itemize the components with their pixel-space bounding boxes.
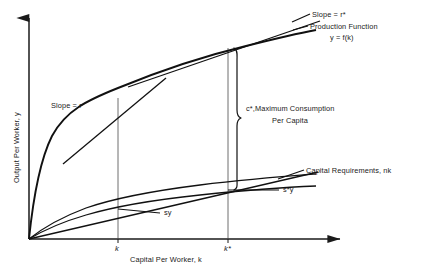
annotation-consumption-line1: c*,Maximum Consumption	[246, 104, 334, 113]
annotation-sy: sy	[164, 208, 172, 217]
tangent-line-slope-r-star	[128, 21, 320, 87]
x-tick-label-k: k	[115, 244, 119, 254]
annotation-production-function-equation: y = f(k)	[330, 33, 354, 42]
diagram-canvas	[0, 0, 425, 273]
capital-requirements-line	[29, 172, 318, 239]
sy-curve	[29, 186, 316, 239]
annotation-s-star-y: s*y	[283, 185, 294, 194]
x-tick-label-kstar: k*	[224, 244, 231, 254]
leader-slope-r-star	[292, 14, 310, 22]
annotation-slope-r-star: Slope = r*	[312, 10, 346, 19]
annotation-slope-r: Slope = r	[51, 101, 82, 110]
leader-production-function	[293, 26, 308, 30]
tangent-line-slope-r	[63, 78, 166, 164]
annotation-capital-requirements: Capital Requirements, nk	[306, 166, 391, 175]
production-function-curve	[29, 30, 316, 239]
annotation-production-function: Production Function	[310, 22, 378, 31]
y-axis-label: Output Per Worker, y	[12, 112, 21, 183]
economics-diagram: Output Per Worker, y Capital Per Worker,…	[0, 0, 425, 273]
x-axis-label: Capital Per Worker, k	[130, 255, 202, 264]
annotation-consumption-line2: Per Capita	[272, 116, 308, 125]
consumption-brace	[234, 48, 241, 190]
